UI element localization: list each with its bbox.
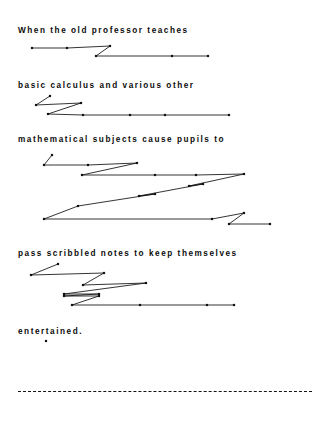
scribble-segment <box>48 114 229 115</box>
scribble-group-1 <box>31 45 209 57</box>
scribble-node <box>195 174 197 176</box>
scribble-segment <box>31 273 104 275</box>
scanned-page: When the old professor teaches basic cal… <box>0 0 326 425</box>
scribble-node <box>80 102 82 104</box>
scribble-node <box>138 195 140 197</box>
scribble-segment <box>64 294 99 296</box>
scribble-node <box>206 304 208 306</box>
scribble-segment <box>64 283 146 294</box>
scribble-node <box>103 272 105 274</box>
scribble-node <box>98 293 100 295</box>
scribble-segment <box>96 46 110 56</box>
scribble-node <box>57 263 59 265</box>
scribble-node <box>243 212 245 214</box>
scribble-node <box>82 114 84 116</box>
scribble-segment <box>189 174 244 186</box>
scribble-diagrams <box>0 0 326 425</box>
scribble-node <box>202 183 204 185</box>
scribble-segment <box>83 273 104 285</box>
scribble-node <box>77 205 79 207</box>
scribble-node <box>164 114 166 116</box>
scribble-node <box>47 113 49 115</box>
scribble-segment <box>78 194 155 206</box>
scribble-node <box>43 164 45 166</box>
scribble-node <box>129 114 131 116</box>
scribble-node <box>228 223 230 225</box>
scribble-segment <box>31 264 58 275</box>
scribble-segment <box>48 103 81 114</box>
scribble-node <box>228 114 230 116</box>
scribble-node <box>109 45 111 47</box>
scribble-segment <box>44 155 52 165</box>
scribble-segment <box>229 213 244 224</box>
scribble-node <box>49 95 51 97</box>
scribble-node <box>87 164 89 166</box>
scribble-node <box>136 162 138 164</box>
scribble-segment <box>82 163 137 175</box>
scribble-node <box>98 295 100 297</box>
text-line-4: pass scribbled notes to keep themselves <box>18 249 238 259</box>
scribble-node <box>35 104 37 106</box>
scribble-node <box>171 55 173 57</box>
dashed-separator-rule <box>18 391 312 392</box>
scribble-node <box>188 185 190 187</box>
scribble-segment <box>32 46 110 48</box>
scribble-node <box>66 47 68 49</box>
scribble-segment <box>44 163 137 165</box>
scribble-segment <box>44 213 244 219</box>
scribble-segment <box>72 296 99 305</box>
scribble-node <box>63 295 65 297</box>
scribble-node <box>211 218 213 220</box>
scribble-node <box>233 304 235 306</box>
scribble-segment <box>44 206 78 219</box>
scribble-node <box>71 304 73 306</box>
scribble-node <box>269 223 271 225</box>
scribble-group-5 <box>45 340 47 342</box>
scribble-node <box>154 193 156 195</box>
scribble-node <box>95 55 97 57</box>
scribble-segment <box>139 194 155 196</box>
scribble-node <box>207 55 209 57</box>
scribble-segment <box>189 184 203 186</box>
scribble-node <box>63 293 65 295</box>
scribble-node <box>30 274 32 276</box>
scribble-node <box>51 154 53 156</box>
text-line-1: When the old professor teaches <box>18 26 189 36</box>
scribble-segment <box>139 184 203 196</box>
scribble-node <box>139 304 141 306</box>
scribble-node <box>81 174 83 176</box>
scribble-node <box>145 282 147 284</box>
scribble-segment <box>83 283 146 285</box>
scribble-node <box>43 218 45 220</box>
scribble-node <box>45 340 47 342</box>
scribble-segment <box>36 96 50 105</box>
scribble-node <box>31 47 33 49</box>
scribble-node <box>243 173 245 175</box>
text-line-5: entertained. <box>18 327 83 337</box>
scribble-node <box>82 284 84 286</box>
text-line-2: basic calculus and various other <box>18 81 195 91</box>
scribble-group-2 <box>35 95 230 116</box>
scribble-group-4 <box>30 263 235 306</box>
scribble-segment <box>36 103 81 105</box>
scribble-group-3 <box>43 154 271 225</box>
text-line-3: mathematical subjects cause pupils to <box>18 135 225 145</box>
scribble-node <box>154 174 156 176</box>
scribble-segment <box>82 174 244 175</box>
